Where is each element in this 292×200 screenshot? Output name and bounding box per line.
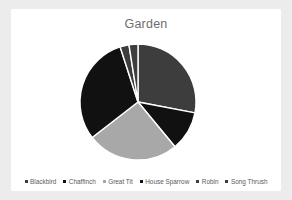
- legend-swatch-icon: [140, 180, 143, 183]
- legend-item-label: Song Thrush: [231, 179, 267, 185]
- legend-swatch-icon: [225, 180, 228, 183]
- legend-item[interactable]: Song Thrush: [225, 179, 267, 185]
- pie-chart: [11, 9, 281, 191]
- legend-item-label: Chaffinch: [69, 179, 96, 185]
- pie-slice-group: [80, 44, 196, 160]
- chart-card: Garden BlackbirdChaffinchGreat TitHouse …: [11, 9, 281, 191]
- pie-chart-svg: [11, 9, 281, 191]
- legend-swatch-icon: [103, 180, 106, 183]
- legend-item-label: Great Tit: [108, 179, 133, 185]
- legend-item[interactable]: Robin: [196, 179, 218, 185]
- legend-item[interactable]: Chaffinch: [63, 179, 95, 185]
- chart-legend: BlackbirdChaffinchGreat TitHouse Sparrow…: [11, 179, 281, 185]
- legend-item-label: House Sparrow: [145, 179, 189, 185]
- legend-item-label: Blackbird: [30, 179, 56, 185]
- legend-item-label: Robin: [202, 179, 219, 185]
- legend-item[interactable]: Blackbird: [25, 179, 57, 185]
- pie-slice[interactable]: [138, 44, 196, 113]
- legend-swatch-icon: [63, 180, 66, 183]
- legend-swatch-icon: [25, 180, 28, 183]
- legend-item[interactable]: House Sparrow: [140, 179, 190, 185]
- legend-swatch-icon: [196, 180, 199, 183]
- legend-item[interactable]: Great Tit: [103, 179, 133, 185]
